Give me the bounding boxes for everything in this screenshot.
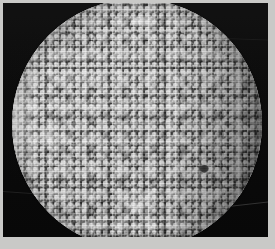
crater-bright-southcentral <box>120 195 154 215</box>
crater-bright-west <box>38 123 58 149</box>
image-frame <box>3 3 268 237</box>
crater-speckle-coarse <box>12 3 262 237</box>
crater-speckle-fine <box>12 3 262 237</box>
crater-speckle-medium <box>12 3 262 237</box>
moon-scanlines <box>12 3 262 237</box>
moon-albedo-mottling <box>12 3 262 237</box>
crater-bright-north <box>130 15 152 27</box>
crater-dark-central <box>200 165 209 173</box>
moon-terminator-shading <box>12 3 262 237</box>
photo-plate: Cratered icy moon — spacecraft grayscale… <box>0 0 275 249</box>
moon-limb-darkening <box>12 3 262 237</box>
moon-disk <box>12 3 262 237</box>
moon-surface-base <box>12 3 262 237</box>
